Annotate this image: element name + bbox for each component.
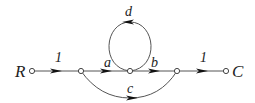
node-C xyxy=(223,68,228,73)
self-loop-d xyxy=(109,22,151,71)
gain-d-label: d xyxy=(125,4,133,19)
gain-a-label: a xyxy=(104,55,111,70)
node-1 xyxy=(78,68,83,73)
gain-c-label: c xyxy=(127,81,134,96)
output-label: C xyxy=(232,62,244,81)
node-2 xyxy=(127,68,132,73)
signal-flow-graph: R C 1 a b 1 d c xyxy=(0,0,255,103)
gain-b-label: b xyxy=(151,55,158,70)
input-label: R xyxy=(14,62,26,81)
gain-r1-label: 1 xyxy=(55,50,62,65)
node-3 xyxy=(174,68,179,73)
diagram-svg: R C 1 a b 1 d c xyxy=(0,0,255,103)
gain-1c-label: 1 xyxy=(200,50,207,65)
node-R xyxy=(29,68,34,73)
